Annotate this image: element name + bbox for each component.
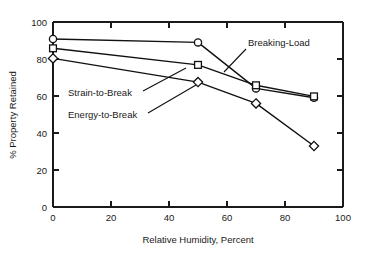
x-tick-label-60: 60 [222,212,233,223]
data-point-marker-square [253,82,260,89]
y-tick-label-0: 0 [42,202,47,213]
chart-figure: 0 20 40 60 80 100 0 20 40 60 80 100 Rela… [0,0,365,256]
data-point-marker-diamond [48,54,57,63]
leader-line-breaking-load [224,49,246,72]
line-chart: 0 20 40 60 80 100 0 20 40 60 80 100 Rela… [0,0,365,256]
y-tick-label-80: 80 [36,54,47,65]
y-tick-label-20: 20 [36,165,47,176]
data-point-marker-square [195,62,202,69]
y-axis-title: % Property Retained [7,71,18,159]
leader-line-energy-to-break [148,85,196,113]
data-point-marker-circle [194,39,201,46]
data-point-marker-square [50,45,57,52]
y-tick-label-60: 60 [36,91,47,102]
x-tick-label-0: 0 [50,212,55,223]
annotation-strain-to-break: Strain-to-Break [68,87,132,98]
x-tick-label-40: 40 [164,212,175,223]
series-energy-to-break-path [53,58,314,146]
x-axis-title: Relative Humidity, Percent [142,234,254,245]
data-point-marker-square [311,93,318,100]
y-tick-label-40: 40 [36,128,47,139]
annotation-breaking-load: Breaking-Load [248,37,310,48]
y-tick-label-100: 100 [31,17,47,28]
x-tick-label-100: 100 [335,212,351,223]
data-point-marker-circle [49,35,56,42]
y-tick-labels: 0 20 40 60 80 100 [31,17,47,213]
annotation-energy-to-break: Energy-to-Break [68,109,137,120]
x-tick-labels: 0 20 40 60 80 100 [50,212,351,223]
x-tick-label-80: 80 [280,212,291,223]
x-tick-label-20: 20 [106,212,117,223]
series-energy-to-break [48,54,318,151]
